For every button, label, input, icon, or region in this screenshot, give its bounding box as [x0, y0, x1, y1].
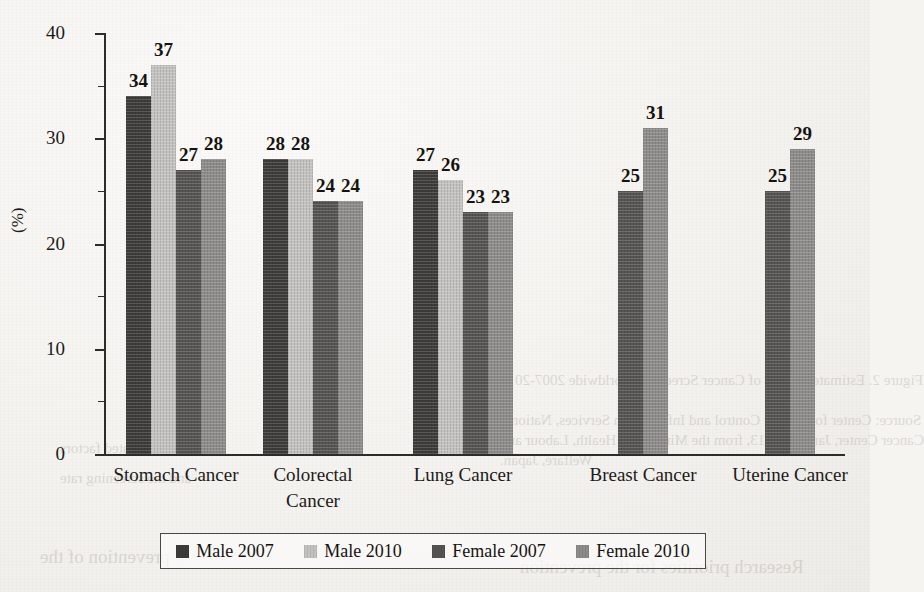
bar-texture: [151, 65, 176, 454]
y-tick-label-20: 20: [21, 233, 65, 255]
bar-female-2007-lung-cancer: [463, 212, 488, 454]
swatch-texture: [576, 545, 589, 558]
bar-texture: [463, 212, 488, 454]
y-tick-label-0: 0: [21, 443, 65, 465]
legend-label: Female 2010: [596, 541, 689, 562]
chart-legend: Male 2007Male 2010Female 2007Female 2010: [160, 533, 706, 569]
bar-texture: [338, 201, 363, 454]
bar-texture: [201, 159, 226, 454]
y-minor-tick-15: [98, 296, 104, 297]
legend-item-male-2010[interactable]: Male 2010: [304, 541, 401, 562]
bar-female-2010-stomach-cancer: [201, 159, 226, 454]
legend-swatch-icon: [176, 545, 189, 558]
y-minor-tick-5: [98, 401, 104, 402]
bar-male-2007-colorectal-cancer: [263, 159, 288, 454]
bar-value-label: 28: [281, 133, 321, 155]
bar-value-label: 37: [144, 39, 184, 61]
legend-item-female-2007[interactable]: Female 2007: [432, 541, 545, 562]
legend-label: Female 2007: [452, 541, 545, 562]
y-tick-30: [95, 138, 104, 140]
bar-texture: [765, 191, 790, 454]
bar-value-label: 26: [431, 154, 471, 176]
category-label-line: Uterine Cancer: [700, 462, 880, 488]
y-tick-20: [95, 244, 104, 246]
bar-value-label: 23: [481, 186, 521, 208]
bar-texture: [288, 159, 313, 454]
y-tick-label-40: 40: [21, 22, 65, 44]
legend-item-female-2010[interactable]: Female 2010: [576, 541, 689, 562]
category-label-line: Lung Cancer: [373, 462, 553, 488]
y-tick-0: [95, 454, 104, 456]
bar-female-2010-lung-cancer: [488, 212, 513, 454]
legend-swatch-icon: [576, 545, 589, 558]
category-label-line: Cancer: [223, 488, 403, 514]
category-label-lung-cancer: Lung Cancer: [373, 462, 553, 488]
y-axis-title: (%): [8, 208, 28, 233]
bar-texture: [618, 191, 643, 454]
bar-texture: [488, 212, 513, 454]
y-tick-label-10: 10: [21, 338, 65, 360]
bar-male-2007-lung-cancer: [413, 170, 438, 454]
bar-texture: [313, 201, 338, 454]
bar-value-label: 28: [194, 133, 234, 155]
bar-value-label: 25: [758, 165, 798, 187]
bar-texture: [790, 149, 815, 454]
bar-texture: [126, 96, 151, 454]
bar-female-2007-uterine-cancer: [765, 191, 790, 454]
legend-swatch-icon: [432, 545, 445, 558]
y-tick-label-30: 30: [21, 127, 65, 149]
bar-texture: [413, 170, 438, 454]
legend-swatch-icon: [304, 545, 317, 558]
legend-item-male-2007[interactable]: Male 2007: [176, 541, 273, 562]
bar-texture: [263, 159, 288, 454]
bar-texture: [438, 180, 463, 454]
bar-female-2007-breast-cancer: [618, 191, 643, 454]
bar-female-2007-colorectal-cancer: [313, 201, 338, 454]
y-tick-40: [95, 33, 104, 35]
category-label-uterine-cancer: Uterine Cancer: [700, 462, 880, 488]
bar-value-label: 29: [783, 123, 823, 145]
y-minor-tick-25: [98, 191, 104, 192]
swatch-texture: [176, 545, 189, 558]
bar-female-2010-uterine-cancer: [790, 149, 815, 454]
swatch-texture: [304, 545, 317, 558]
legend-label: Male 2010: [324, 541, 401, 562]
y-minor-tick-35: [98, 86, 104, 87]
swatch-texture: [432, 545, 445, 558]
x-axis-line: [104, 454, 845, 456]
legend-label: Male 2007: [196, 541, 273, 562]
y-axis-line: [104, 33, 106, 456]
bar-male-2010-lung-cancer: [438, 180, 463, 454]
bar-male-2010-colorectal-cancer: [288, 159, 313, 454]
bar-value-label: 25: [611, 165, 651, 187]
bar-female-2007-stomach-cancer: [176, 170, 201, 454]
bar-male-2007-stomach-cancer: [126, 96, 151, 454]
bar-texture: [176, 170, 201, 454]
bar-value-label: 34: [119, 70, 159, 92]
bar-male-2010-stomach-cancer: [151, 65, 176, 454]
y-tick-10: [95, 349, 104, 351]
bar-value-label: 31: [636, 102, 676, 124]
bar-value-label: 24: [331, 175, 371, 197]
bar-female-2010-colorectal-cancer: [338, 201, 363, 454]
